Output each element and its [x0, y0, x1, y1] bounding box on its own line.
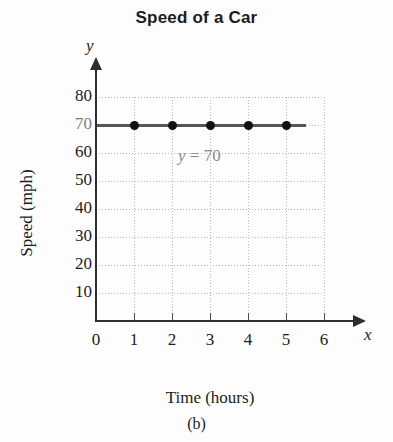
chart-title: Speed of a Car: [0, 8, 393, 28]
x-axis-variable-label: x: [364, 325, 372, 345]
x-tick-mark-3: [210, 313, 211, 321]
y-axis-variable-label: y: [86, 36, 94, 56]
x-axis-title: Time (hours): [96, 388, 324, 408]
data-point: [206, 121, 215, 130]
x-tick-label-2: 2: [162, 330, 182, 350]
y-tick-label-50: 50: [62, 170, 92, 190]
x-tick-label-6: 6: [314, 330, 334, 350]
data-point: [244, 121, 253, 130]
series-equation-value: = 70: [186, 146, 221, 165]
y-tick-label-10: 10: [62, 282, 92, 302]
x-tick-label-4: 4: [238, 330, 258, 350]
y-axis-title: Speed (mph): [17, 148, 37, 278]
gridline-vertical-1: [134, 97, 135, 321]
x-tick-mark-6: [324, 313, 325, 321]
y-tick-label-40: 40: [62, 198, 92, 218]
series-line-y-70: [96, 124, 306, 127]
y-tick-label-70: 70: [62, 114, 92, 134]
plot-area: y = 70: [96, 97, 324, 321]
x-tick-mark-2: [172, 313, 173, 321]
y-tick-label-30: 30: [62, 226, 92, 246]
y-axis-arrow-icon: [90, 57, 102, 70]
x-tick-label-3: 3: [200, 330, 220, 350]
x-tick-label-1: 1: [124, 330, 144, 350]
series-equation-variable: y: [178, 146, 186, 165]
x-tick-mark-1: [134, 313, 135, 321]
gridline-vertical-2: [172, 97, 173, 321]
gridline-vertical-3: [210, 97, 211, 321]
figure-speed-of-a-car: Speed of a Car y = 70: [0, 0, 393, 442]
y-axis-line: [95, 68, 97, 321]
series-equation-label: y = 70: [178, 146, 221, 166]
y-tick-label-80: 80: [62, 86, 92, 106]
gridline-vertical-5: [286, 97, 287, 321]
y-tick-label-20: 20: [62, 254, 92, 274]
gridline-vertical-4: [248, 97, 249, 321]
x-tick-label-0: 0: [86, 330, 106, 350]
data-point: [130, 121, 139, 130]
y-tick-label-60: 60: [62, 142, 92, 162]
data-point: [168, 121, 177, 130]
x-tick-label-5: 5: [276, 330, 296, 350]
gridline-vertical-6: [324, 97, 325, 321]
x-tick-mark-4: [248, 313, 249, 321]
figure-caption: (b): [0, 415, 393, 433]
data-point: [282, 121, 291, 130]
x-tick-mark-5: [286, 313, 287, 321]
